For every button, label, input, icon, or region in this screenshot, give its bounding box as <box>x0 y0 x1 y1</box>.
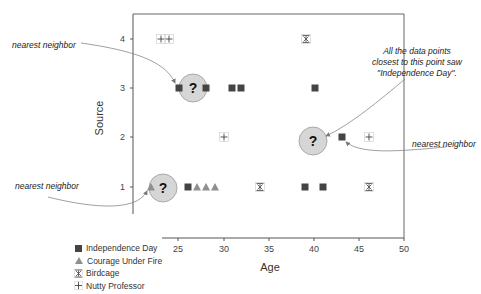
triangle-icon <box>75 257 83 264</box>
plot-frame <box>133 14 404 238</box>
legend-item-independence-day: Independence Day <box>74 242 162 255</box>
annotation-callout-line3: "Independence Day". <box>377 68 457 78</box>
annotation-nearest-neighbor-bottom: nearest neighbor <box>15 181 80 191</box>
annotation-nearest-neighbor-top: nearest neighbor <box>12 40 77 50</box>
plus-box-icon <box>74 281 83 290</box>
y-tick-4: 4 <box>120 34 125 44</box>
filled-square-icon <box>75 245 82 252</box>
y-tick-2: 2 <box>120 132 125 142</box>
legend-label: Independence Day <box>86 242 157 255</box>
y-axis-title: Source <box>93 101 105 136</box>
svg-text:?: ? <box>309 133 318 149</box>
series-birdcage <box>256 35 374 192</box>
legend-label: Nutty Professor <box>86 280 145 293</box>
asterisk-box-icon <box>74 269 83 278</box>
annotation-nearest-neighbor-right: nearest neighbor <box>412 139 477 149</box>
legend-item-nutty-professor: Nutty Professor <box>74 280 162 293</box>
x-axis-title: Age <box>260 261 280 273</box>
x-tick-25: 25 <box>173 244 183 254</box>
svg-text:?: ? <box>159 180 168 196</box>
x-tick-35: 35 <box>264 244 274 254</box>
x-ticks: 25 30 35 40 45 50 <box>173 238 409 254</box>
x-tick-45: 45 <box>354 244 364 254</box>
y-tick-1: 1 <box>120 182 125 192</box>
x-tick-40: 40 <box>309 244 319 254</box>
legend-label: Birdcage <box>86 267 120 280</box>
legend: Independence Day Courage Under Fire Bird… <box>74 242 162 292</box>
query-point-2: ? <box>299 127 327 155</box>
y-tick-3: 3 <box>120 83 125 93</box>
legend-label: Courage Under Fire <box>87 255 162 268</box>
legend-item-birdcage: Birdcage <box>74 267 162 280</box>
svg-text:?: ? <box>189 80 198 96</box>
legend-item-courage-under-fire: Courage Under Fire <box>74 255 162 268</box>
x-tick-30: 30 <box>219 244 229 254</box>
y-ticks: 4 3 2 1 <box>120 34 133 192</box>
annotation-callout-line1: All the data points <box>382 46 451 56</box>
x-tick-50: 50 <box>399 244 409 254</box>
annotation-callout-line2: closest to this point saw <box>372 57 463 67</box>
